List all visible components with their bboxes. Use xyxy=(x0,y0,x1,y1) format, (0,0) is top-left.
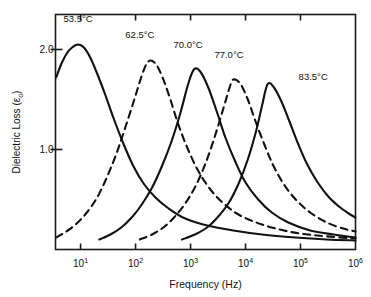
x-tick-label-0: 101 xyxy=(73,257,88,269)
curve-70c xyxy=(99,68,355,239)
series-label-70c: 70.0°C xyxy=(173,39,202,50)
curve-83.5c xyxy=(182,83,355,240)
y-tick-label-1: 2.0 xyxy=(40,44,54,55)
dielectric-loss-figure: 1011021031041051061.02.0Frequency (Hz)Di… xyxy=(0,0,371,297)
chart-canvas: 1011021031041051061.02.0Frequency (Hz)Di… xyxy=(0,0,371,297)
x-axis-title: Frequency (Hz) xyxy=(169,278,241,290)
plot-frame xyxy=(56,15,356,250)
series-label-77c: 77.0°C xyxy=(214,49,243,60)
x-tick-label-5: 106 xyxy=(348,257,363,269)
x-tick-label-2: 103 xyxy=(183,257,198,269)
series-label-62.5c: 62.5°C xyxy=(125,29,154,40)
y-tick-label-0: 1.0 xyxy=(40,144,54,155)
x-tick-label-4: 105 xyxy=(293,257,308,269)
series-label-83.5c: 83.5°C xyxy=(299,71,328,82)
y-axis-title: Dielectric Loss (εo) xyxy=(11,91,24,174)
x-tick-label-1: 102 xyxy=(128,257,143,269)
series-label-53.5c: 53.5°C xyxy=(63,13,92,24)
x-tick-label-3: 104 xyxy=(238,257,253,269)
